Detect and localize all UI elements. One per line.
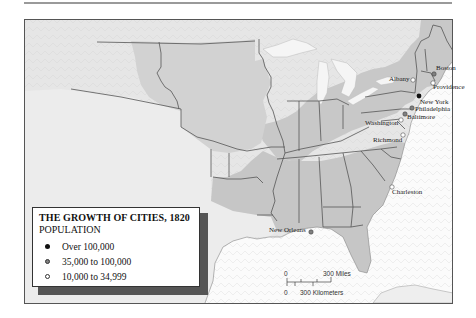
scale-km-zero: 0 [284, 290, 288, 297]
city-dot-albany [411, 78, 415, 82]
legend: THE GROWTH OF CITIES, 1820 POPULATION Ov… [32, 207, 200, 287]
city-label-charleston: Charleston [392, 189, 422, 196]
city-dot-washington [399, 118, 403, 122]
legend-item-label: Over 100,000 [62, 242, 114, 252]
scale-miles-zero: 0 [284, 271, 288, 278]
city-label-new-orleans: New Orleans [269, 227, 306, 234]
legend-title: THE GROWTH OF CITIES, 1820 [39, 212, 193, 224]
legend-item-10k-35k: 10,000 to 34,999 [45, 269, 193, 284]
city-label-washington: Washington [365, 120, 398, 127]
gray-dot-icon [45, 259, 50, 264]
city-label-richmond: Richmond [373, 137, 402, 144]
scale-miles-label: 300 Miles [323, 271, 351, 278]
city-label-albany: Albany [389, 76, 410, 83]
legend-item-label: 10,000 to 34,999 [62, 272, 126, 282]
city-dot-new-orleans [309, 230, 313, 234]
legend-subtitle: POPULATION [39, 224, 193, 236]
scale-km-label: 300 Kilometers [300, 290, 343, 297]
legend-item-35k-100k: 35,000 to 100,000 [45, 254, 193, 269]
legend-item-label: 35,000 to 100,000 [62, 257, 131, 267]
city-label-philadelphia: Philadelphia [415, 106, 450, 113]
black-dot-icon [45, 244, 50, 249]
city-label-baltimore: Baltimore [407, 114, 435, 121]
legend-item-over-100k: Over 100,000 [45, 239, 193, 254]
city-dot-boston [432, 72, 436, 76]
city-label-providence: Providence [433, 84, 465, 91]
city-dot-philadelphia [410, 106, 414, 110]
top-rule [24, 2, 452, 4]
open-dot-icon [45, 274, 50, 279]
city-label-boston: Boston [436, 65, 456, 72]
